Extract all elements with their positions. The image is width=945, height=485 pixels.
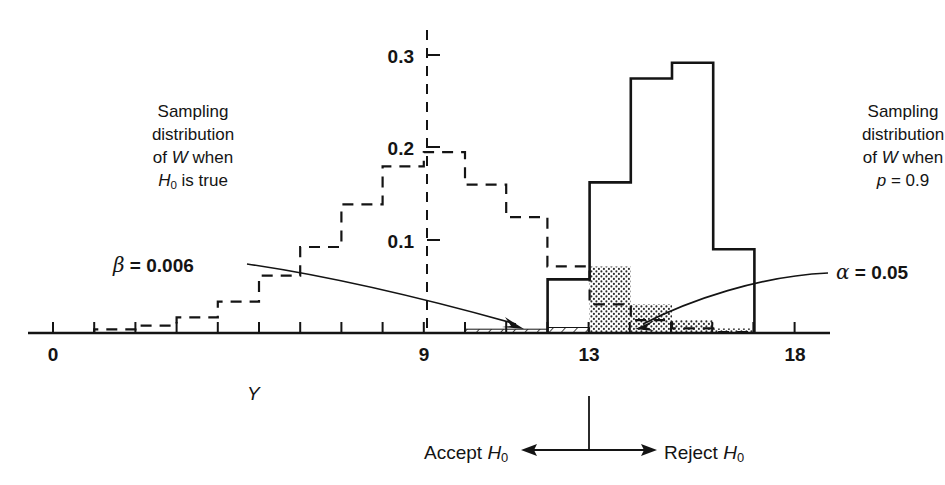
- left-caption-line1: Sampling: [158, 102, 229, 121]
- beta-leader-arrow: [247, 264, 524, 329]
- reject-h0-label: Reject H0: [664, 440, 744, 466]
- x-axis-name: Y: [247, 381, 260, 406]
- reject-hypothesis-sub: 0: [737, 450, 744, 465]
- left-distribution-caption: Sampling distribution of W when H0 is tr…: [118, 100, 268, 194]
- right-caption-line3-post: when: [898, 148, 943, 167]
- x-tick-label-18: 18: [775, 342, 815, 367]
- y-axis-ticks: [427, 55, 440, 240]
- chart-canvas: [0, 0, 945, 485]
- accept-label-text: Accept: [424, 442, 487, 463]
- alpha-annotation: α = 0.05: [836, 259, 908, 285]
- x-tick-label-0: 0: [33, 342, 73, 367]
- power-curve-figure: Sampling distribution of W when H0 is tr…: [0, 0, 945, 485]
- right-caption-line4-post: = 0.9: [886, 171, 929, 190]
- left-caption-hypothesis: H: [158, 171, 170, 190]
- y-tick-label-0.1: 0.1: [362, 229, 414, 254]
- reject-label-text: Reject: [664, 442, 723, 463]
- right-caption-variable: W: [882, 148, 898, 167]
- x-tick-label-9: 9: [404, 342, 444, 367]
- left-caption-variable: W: [172, 148, 188, 167]
- accept-hypothesis-sub: 0: [501, 450, 508, 465]
- right-distribution-caption: Sampling distribution of W when p = 0.9: [828, 100, 945, 192]
- beta-annotation: β = 0.006: [113, 252, 194, 278]
- alpha-symbol: α: [836, 260, 850, 284]
- accept-h0-label: Accept H0: [424, 440, 508, 466]
- y-tick-label-0.2: 0.2: [362, 136, 414, 161]
- right-caption-line3-pre: of: [863, 148, 882, 167]
- left-caption-line3-pre: of: [153, 148, 172, 167]
- reject-hypothesis-symbol: H: [723, 442, 737, 463]
- left-caption-line3-post: when: [188, 148, 233, 167]
- beta-value-text: = 0.006: [125, 255, 194, 276]
- left-caption-line2: distribution: [152, 125, 234, 144]
- right-caption-line1: Sampling: [868, 102, 939, 121]
- y-tick-label-0.3: 0.3: [362, 44, 414, 69]
- right-caption-line2: distribution: [862, 125, 944, 144]
- beta-symbol: β: [113, 253, 125, 277]
- right-caption-parameter: p: [877, 171, 886, 190]
- accept-hypothesis-symbol: H: [487, 442, 501, 463]
- x-tick-label-13: 13: [569, 342, 609, 367]
- left-caption-line4-post: is true: [177, 171, 228, 190]
- decision-divider: [521, 396, 657, 456]
- alpha-value-text: = 0.05: [850, 262, 909, 283]
